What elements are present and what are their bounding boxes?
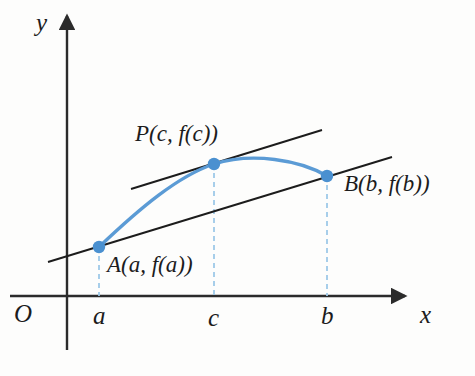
origin-label: O [14,301,32,326]
point-a-label: A(a, f(a)) [107,253,193,276]
x-axis-label: x [420,302,431,327]
point-p-marker [208,158,220,170]
point-b-label: B(b, f(b)) [344,172,430,195]
point-a-marker [93,241,105,253]
x-tick-label-a: a [93,303,106,328]
function-curve [99,158,327,247]
mean-value-theorem-figure: y x O a c b P(c, f(c)) A(a, f(a)) B(b, f… [0,0,475,376]
point-p-label: P(c, f(c)) [135,122,218,145]
point-b-marker [321,170,333,182]
y-axis-label: y [36,10,47,35]
x-tick-label-c: c [208,305,219,330]
x-tick-label-b: b [321,303,334,328]
